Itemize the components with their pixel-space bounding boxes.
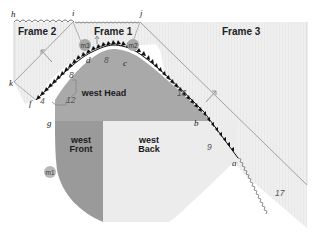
point-k: k xyxy=(9,78,14,88)
number-9: 9 xyxy=(207,142,212,152)
marker-m2: m2 xyxy=(127,39,139,51)
point-c: c xyxy=(123,58,127,68)
point-j: j xyxy=(139,8,143,18)
west-back-label-line2: Back xyxy=(138,144,161,154)
number-8-top: 8 xyxy=(104,55,109,65)
svg-text:m2: m2 xyxy=(128,42,137,49)
point-h: h xyxy=(11,9,16,19)
frame-2-scalloped-top xyxy=(14,20,74,22)
number-17: 17 xyxy=(275,188,285,198)
frame-3-label: Frame 3 xyxy=(222,26,261,37)
point-d: d xyxy=(86,55,91,65)
point-g: g xyxy=(47,118,52,128)
number-8-left: 8 xyxy=(69,70,74,80)
west-head-label: west Head xyxy=(81,88,127,98)
marker-m1: m1 xyxy=(44,166,56,178)
west-back-region xyxy=(103,121,238,222)
point-b: b xyxy=(194,118,199,128)
svg-text:m1: m1 xyxy=(45,169,54,176)
number-4: 4 xyxy=(40,96,45,106)
point-i: i xyxy=(72,8,75,18)
west-front-label-line2: Front xyxy=(70,144,93,154)
number-16: 16 xyxy=(177,88,187,98)
weather-front-diagram: Frame 2 Frame 1 Frame 3 west Head west F… xyxy=(0,0,320,242)
number-12: 12 xyxy=(66,95,76,105)
frame-2-label: Frame 2 xyxy=(18,26,57,37)
marker-m3: m3 xyxy=(79,39,91,51)
point-a: a xyxy=(232,158,237,168)
frame-1-label: Frame 1 xyxy=(94,26,133,37)
svg-text:m3: m3 xyxy=(80,42,89,49)
